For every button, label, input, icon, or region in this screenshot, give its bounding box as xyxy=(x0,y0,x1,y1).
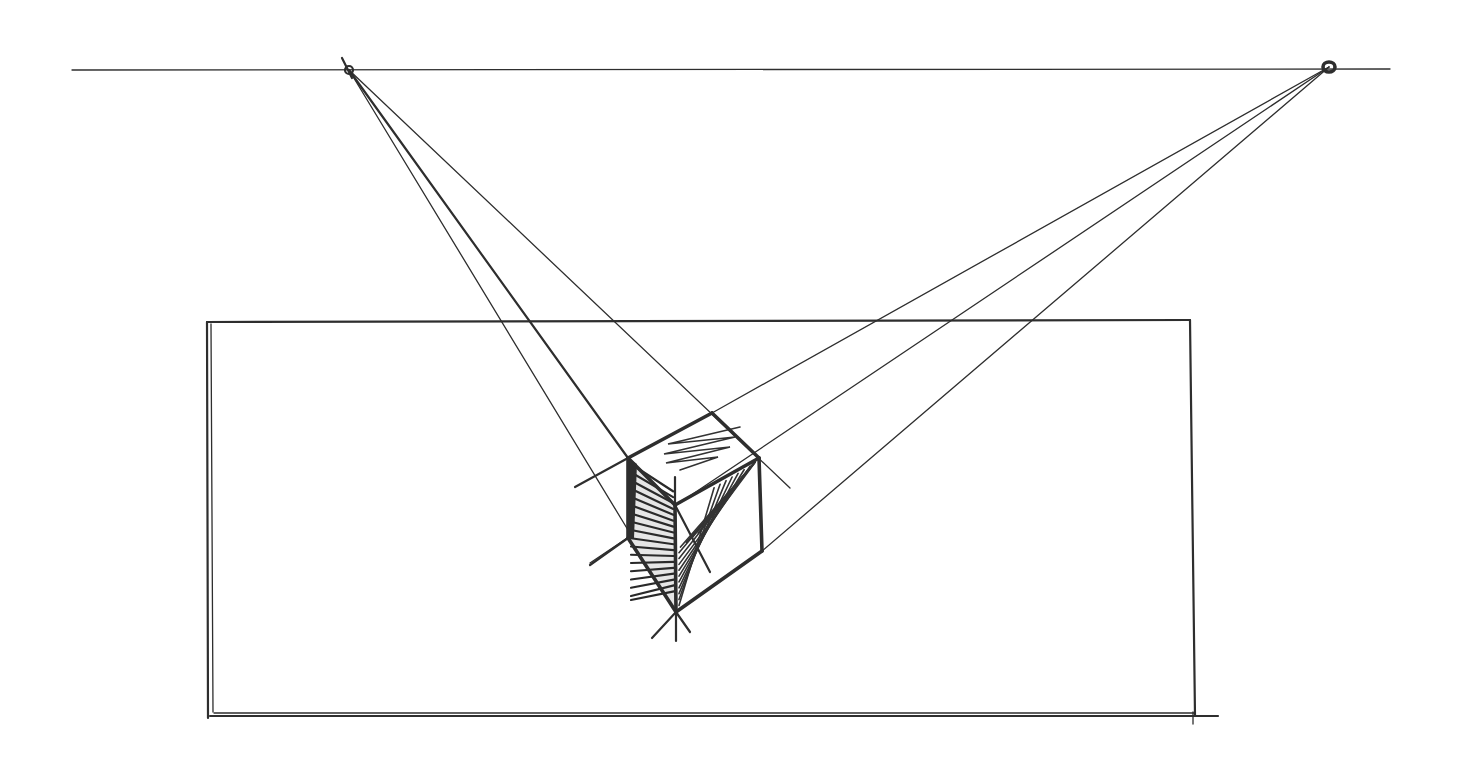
perspective-drawing xyxy=(0,0,1466,766)
frame-left-edge xyxy=(207,322,208,718)
paper-background xyxy=(0,0,1466,766)
left-face-hatch xyxy=(631,562,674,563)
sketch-canvas: Two-point perspective cube sketch xyxy=(0,0,1466,766)
edge-front-vertical xyxy=(675,505,676,612)
